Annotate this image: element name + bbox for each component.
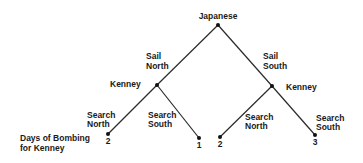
- move-left-search-north-line2: North: [87, 119, 110, 129]
- root-node: [216, 23, 220, 27]
- edge-right-searchsouth: [272, 86, 315, 135]
- payoff-2: 1: [197, 140, 202, 150]
- edge-root-left: [157, 25, 218, 85]
- payoff-1: 2: [106, 136, 111, 146]
- game-tree-diagram: Japanese Sail North Sail South Kenney Ke…: [0, 0, 363, 163]
- payoff-label-line1: Days of Bombing: [20, 133, 90, 143]
- move-sail-south-line1: Sail: [263, 51, 278, 61]
- kenney-node-left: [155, 83, 159, 87]
- kenney-node-right: [270, 84, 274, 88]
- payoff-label-line2: for Kenney: [20, 143, 65, 153]
- move-sail-south-line2: South: [263, 61, 287, 71]
- root-player-label: Japanese: [199, 11, 238, 21]
- move-sail-north-line2: North: [146, 61, 169, 71]
- payoff-4: 3: [313, 137, 318, 147]
- move-right-search-north-line2: North: [245, 121, 268, 131]
- kenney-label-left: Kenney: [110, 79, 141, 89]
- move-right-search-south-line2: South: [316, 122, 340, 132]
- move-sail-north-line1: Sail: [146, 51, 161, 61]
- kenney-label-right: Kenney: [286, 82, 317, 92]
- payoff-3: 2: [218, 139, 223, 149]
- move-left-search-south-line2: South: [148, 119, 172, 129]
